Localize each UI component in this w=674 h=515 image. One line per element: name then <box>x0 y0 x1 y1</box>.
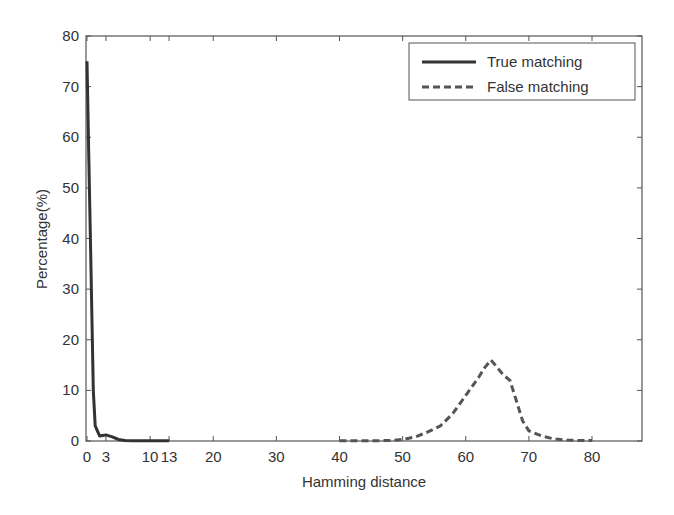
x-tick-labels: 03101320304050607080 <box>83 448 601 465</box>
x-tick-label: 0 <box>83 448 91 465</box>
y-tick-labels: 01020304050607080 <box>62 27 79 449</box>
series-false-matching <box>340 360 593 441</box>
x-tick-label: 40 <box>331 448 348 465</box>
legend-item-true-matching: True matching <box>487 53 582 70</box>
y-tick-label: 30 <box>62 280 79 297</box>
y-tick-label: 50 <box>62 179 79 196</box>
x-axis-label: Hamming distance <box>302 473 426 490</box>
series-true-matching <box>87 61 169 440</box>
x-tick-label: 13 <box>161 448 178 465</box>
x-tick-label: 50 <box>394 448 411 465</box>
y-tick-label: 60 <box>62 128 79 145</box>
chart: 03101320304050607080 01020304050607080 H… <box>0 0 674 515</box>
y-tick-label: 40 <box>62 230 79 247</box>
x-tick-label: 30 <box>268 448 285 465</box>
y-tick-label: 70 <box>62 78 79 95</box>
y-tick-label: 80 <box>62 27 79 44</box>
y-tick-label: 10 <box>62 381 79 398</box>
x-tick-label: 20 <box>205 448 222 465</box>
legend: True matching False matching <box>409 43 635 100</box>
data-series <box>87 61 592 440</box>
y-axis-label: Percentage(%) <box>33 189 50 289</box>
x-tick-label: 10 <box>142 448 159 465</box>
x-tick-label: 60 <box>457 448 474 465</box>
x-tick-label: 70 <box>521 448 538 465</box>
y-tick-label: 0 <box>71 432 79 449</box>
x-tick-label: 80 <box>584 448 601 465</box>
x-tick-label: 3 <box>102 448 110 465</box>
y-tick-label: 20 <box>62 331 79 348</box>
legend-item-false-matching: False matching <box>487 78 589 95</box>
